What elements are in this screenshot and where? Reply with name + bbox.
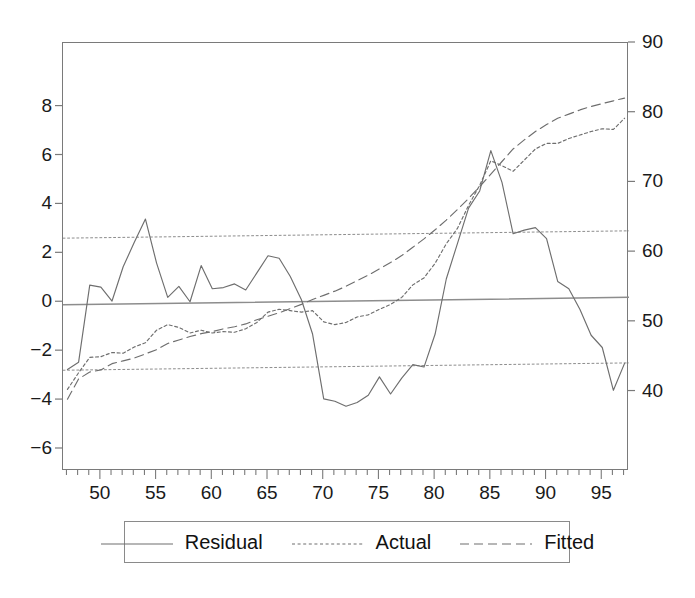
right-axis-tick-label: 50	[642, 311, 690, 330]
legend-label: Actual	[376, 532, 432, 552]
x-axis-tick-label: 90	[526, 483, 566, 502]
legend-item-fitted[interactable]: Fitted	[445, 532, 608, 552]
series-residual	[67, 151, 624, 407]
x-axis-tick-label: 75	[358, 483, 398, 502]
x-axis-tick-label: 50	[80, 483, 120, 502]
chart-legend: ResidualActualFitted	[124, 521, 570, 563]
left-axis-tick-label: 4	[4, 193, 52, 212]
right-axis-tick-label: 90	[642, 32, 690, 51]
right-axis-tick-label: 80	[642, 102, 690, 121]
left-axis-tick-label: −6	[4, 438, 52, 457]
series-fitted	[67, 98, 624, 399]
legend-label: Residual	[185, 532, 263, 552]
x-axis-tick-label: 70	[303, 483, 343, 502]
right-axis-tick-label: 70	[642, 171, 690, 190]
x-axis-tick-label: 60	[191, 483, 231, 502]
legend-item-actual[interactable]: Actual	[277, 532, 446, 552]
zero-line	[63, 297, 629, 304]
left-axis-tick-label: 6	[4, 145, 52, 164]
right-axis-tick-label: 40	[642, 381, 690, 400]
series-actual	[67, 118, 624, 389]
left-axis-tick-label: −4	[4, 389, 52, 408]
legend-label: Fitted	[544, 532, 594, 552]
x-axis-tick-label: 95	[581, 483, 621, 502]
x-axis-tick-label: 65	[247, 483, 287, 502]
left-axis-tick-label: 8	[4, 96, 52, 115]
plot-area	[62, 42, 628, 470]
plot-canvas	[63, 43, 629, 471]
band-upper-2-sigma	[63, 231, 629, 238]
left-axis-tick-label: 0	[4, 291, 52, 310]
left-axis-tick-label: 2	[4, 242, 52, 261]
x-axis-tick-label: 85	[470, 483, 510, 502]
legend-key-dotted-icon	[291, 536, 365, 548]
left-axis-tick-label: −2	[4, 340, 52, 359]
band-lower-2-sigma	[63, 363, 629, 370]
chart-root: −6−4−202468 405060708090 505560657075808…	[0, 0, 695, 598]
x-axis-tick-label: 80	[414, 483, 454, 502]
right-axis-tick-label: 60	[642, 241, 690, 260]
legend-item-residual[interactable]: Residual	[86, 532, 277, 552]
legend-key-solid-icon	[100, 536, 174, 548]
legend-key-dashed-icon	[459, 536, 533, 548]
x-axis-tick-label: 55	[136, 483, 176, 502]
